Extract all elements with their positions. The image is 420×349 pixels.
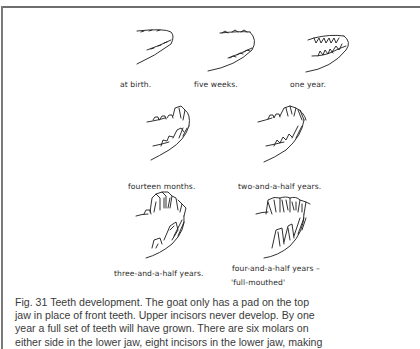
caption-line: Fig. 31 Teeth development. The goat only…: [15, 296, 315, 309]
jaw-drawing-five-weeks: [206, 28, 261, 72]
stage-label-full-mouthed: 'full-mouthed': [231, 278, 285, 287]
caption-line: year a full set of teeth will have grown…: [15, 322, 315, 335]
stage-label-five-weeks: five weeks.: [194, 80, 238, 89]
jaw-drawing-three-and-a-half-years: [134, 190, 194, 260]
stage-label-four-and-a-half-years: four-and-a-half years –: [232, 264, 320, 273]
stage-label-one-year: one year.: [290, 80, 326, 89]
jaw-drawing-two-and-a-half-years: [256, 106, 314, 164]
stage-label-at-birth: at birth.: [120, 80, 151, 89]
caption-line: either side in the lower jaw, eight inci…: [15, 336, 315, 349]
stage-label-two-and-a-half-years: two-and-a-half years.: [238, 182, 321, 191]
figure-caption: Fig. 31 Teeth development. The goat only…: [15, 296, 315, 349]
figure-frame-left-border: [1, 6, 3, 349]
jaw-drawing-one-year: [302, 32, 354, 74]
figure-frame-top-border: [1, 6, 420, 8]
jaw-drawing-at-birth: [135, 26, 185, 66]
caption-line: jaw in place of front teeth. Upper incis…: [15, 309, 315, 322]
book-page: at birth. five weeks. one year.: [0, 0, 420, 349]
jaw-drawing-four-and-a-half-years: [254, 194, 314, 260]
jaw-drawing-fourteen-months: [145, 106, 201, 162]
stage-label-three-and-a-half-years: three-and-a-half years.: [114, 269, 204, 278]
